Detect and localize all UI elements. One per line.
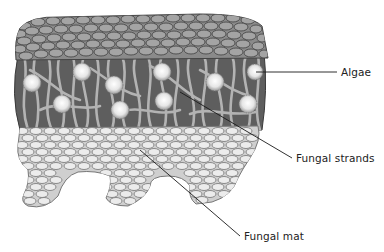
upper-cortex — [14, 14, 269, 60]
lichen-diagram — [0, 0, 384, 252]
fungal-strands-label: Fungal strands — [296, 152, 375, 164]
algal-layer — [14, 52, 265, 130]
algae-label: Algae — [341, 66, 371, 78]
fungal-mat — [16, 126, 259, 207]
fungal-mat-label: Fungal mat — [244, 230, 304, 242]
